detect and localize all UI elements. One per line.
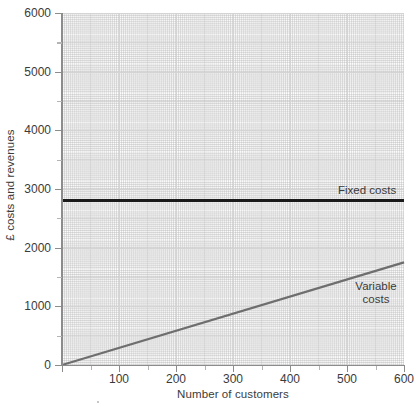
x-tick-label-500: 500: [327, 372, 367, 386]
y-tick-label-5000: 5000: [4, 65, 51, 79]
y-tick-3000: [55, 189, 62, 190]
x-tick-0: [62, 366, 63, 372]
x-tick-label-100: 100: [99, 372, 139, 386]
y-tick-label-2000: 2000: [4, 241, 51, 255]
series-label-fixed-costs: Fixed costs: [338, 184, 396, 197]
x-tick-label-300: 300: [213, 372, 253, 386]
y-tick-2500: [57, 218, 62, 219]
y-tick-5000: [55, 72, 62, 73]
plot-area: Fixed costs Variable costs: [62, 13, 404, 365]
x-tick-50: [91, 366, 92, 370]
x-tick-250: [205, 366, 206, 370]
y-tick-6000: [55, 13, 62, 14]
y-tick-label-1000: 1000: [4, 299, 51, 313]
x-tick-150: [148, 366, 149, 370]
series-fixed-costs: [62, 199, 404, 202]
y-tick-label-0: 0: [4, 358, 51, 372]
y-tick-0: [55, 365, 62, 366]
series-label-variable-costs: Variable costs: [348, 280, 404, 306]
y-tick-label-4000: 4000: [4, 123, 51, 137]
series-label-variable-costs-line1: Variable: [355, 280, 396, 292]
y-tick-label-6000: 6000: [4, 6, 51, 20]
x-tick-550: [376, 366, 377, 370]
y-tick-1500: [57, 277, 62, 278]
x-tick-450: [319, 366, 320, 370]
y-tick-2000: [55, 248, 62, 249]
y-tick-4500: [57, 101, 62, 102]
y-tick-1000: [55, 306, 62, 307]
y-tick-5500: [57, 42, 62, 43]
y-tick-label-3000: 3000: [4, 182, 51, 196]
y-tick-4000: [55, 130, 62, 131]
x-tick-label-600: 600: [384, 372, 416, 386]
series-label-variable-costs-line2: costs: [363, 293, 390, 305]
y-tick-3500: [57, 160, 62, 161]
x-tick-350: [262, 366, 263, 370]
x-tick-label-200: 200: [156, 372, 196, 386]
x-axis-title: Number of customers: [62, 388, 404, 400]
break-even-chart: £ costs and revenues Fixed costs Variabl…: [0, 0, 416, 411]
y-tick-500: [57, 336, 62, 337]
x-tick-label-400: 400: [270, 372, 310, 386]
page-artifact-dot: [97, 401, 99, 403]
